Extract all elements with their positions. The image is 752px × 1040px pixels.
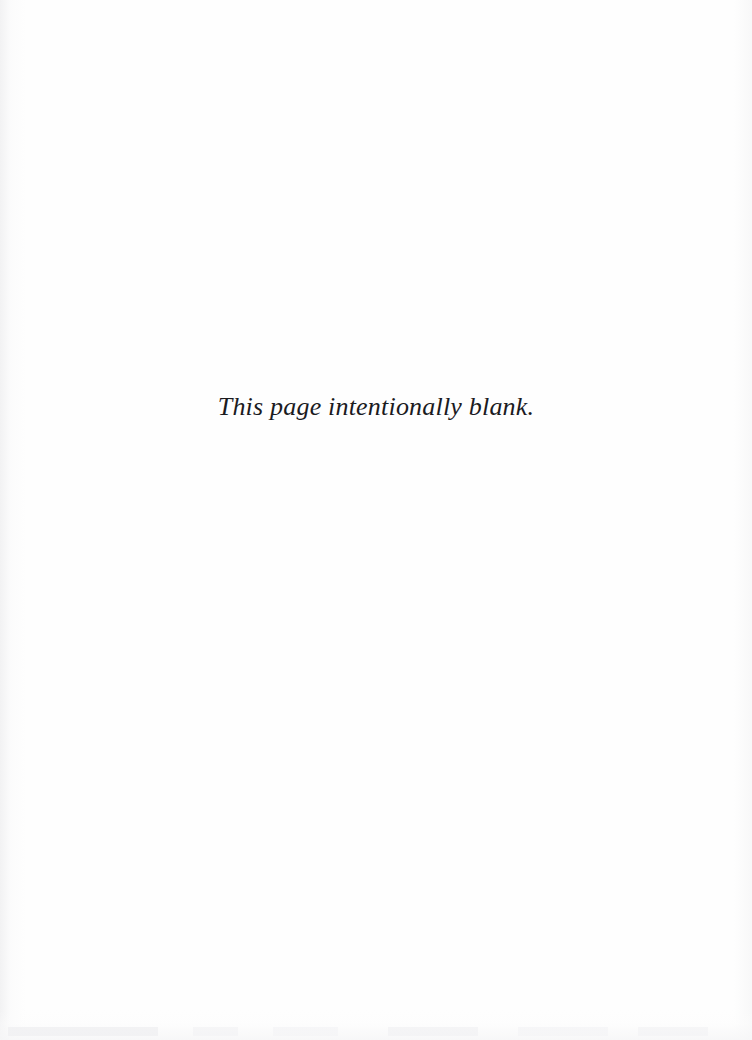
intentionally-blank-notice: This page intentionally blank.: [0, 392, 752, 422]
scan-artifact-bottom-showthrough: [0, 1010, 752, 1040]
document-page: This page intentionally blank.: [0, 0, 752, 1040]
scan-artifact-right-edge: [734, 0, 752, 1040]
scan-artifact-left-edge: [0, 0, 26, 1040]
